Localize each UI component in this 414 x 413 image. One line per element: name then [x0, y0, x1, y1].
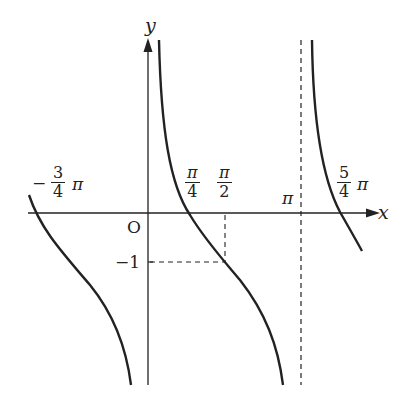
tick-label-half-pi: π 2: [217, 164, 232, 201]
y-axis-arrow-icon: [144, 38, 153, 52]
tick-label-minus-one: −1: [115, 254, 140, 271]
frac-den: 4: [53, 183, 63, 201]
tick-label-neg-sign: −: [32, 175, 46, 192]
y-axis-label: y: [145, 16, 156, 35]
curve-branch-left: [29, 195, 131, 385]
frac-num: π: [217, 164, 232, 183]
tick-label-five-pi: π: [357, 176, 368, 193]
frac-num: 5: [337, 164, 351, 183]
frac-den: 2: [219, 183, 229, 201]
tick-label-neg-pi: π: [72, 176, 83, 193]
graph-canvas: [0, 0, 414, 413]
x-axis-label: x: [378, 203, 389, 222]
origin-label: O: [127, 219, 141, 236]
tick-label-quarter-pi: π 4: [185, 164, 200, 201]
tick-label-neg-three-quarter-pi: 3 4: [51, 164, 65, 201]
frac-num: π: [185, 164, 200, 183]
frac-den: 4: [339, 183, 349, 201]
frac-num: 3: [51, 164, 65, 183]
tick-label-five-quarter-pi: 5 4: [337, 164, 351, 201]
frac-den: 4: [187, 183, 197, 201]
curve-branch-right: [312, 40, 362, 251]
tick-label-pi: π: [282, 190, 293, 207]
